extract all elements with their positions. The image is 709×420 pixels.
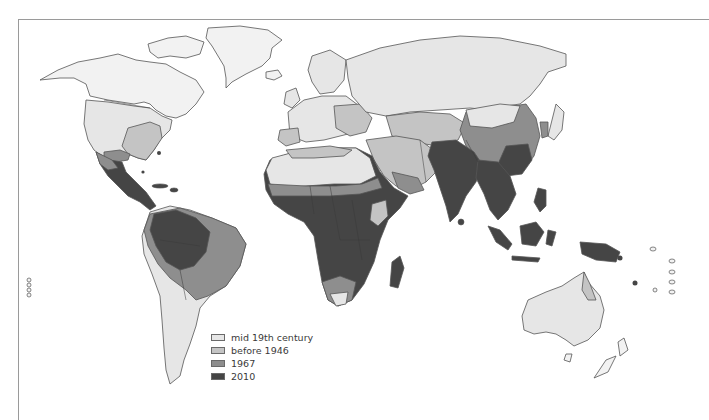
iberia — [278, 128, 300, 146]
legend-swatch — [211, 373, 225, 380]
sulawesi — [546, 230, 556, 246]
south-africa-tip — [330, 292, 348, 306]
legend-swatch — [211, 347, 225, 354]
australia — [522, 272, 604, 346]
pacific-island — [669, 270, 675, 274]
pacific-island-2010 — [618, 256, 623, 261]
legend-label: mid 19th century — [231, 331, 313, 344]
legend-item-1967: 1967 — [211, 357, 313, 370]
japan — [548, 104, 564, 140]
pacific-island — [669, 280, 675, 284]
legend-swatch — [211, 360, 225, 367]
island-chain-left — [27, 288, 31, 292]
map-legend: mid 19th century before 1946 1967 2010 — [211, 331, 313, 383]
new-zealand-north — [618, 338, 628, 356]
new-zealand-south — [594, 356, 616, 378]
legend-label: before 1946 — [231, 344, 289, 357]
pacific-island-2010 — [633, 281, 638, 286]
north-africa-coast — [286, 146, 352, 158]
island-chain-left — [27, 278, 31, 282]
sumatra — [488, 226, 512, 250]
java — [512, 256, 540, 262]
pacific-island — [669, 290, 675, 294]
legend-swatch — [211, 334, 225, 341]
island-chain-left — [27, 283, 31, 287]
legend-item-2010: 2010 — [211, 370, 313, 383]
arctic-islands — [148, 36, 204, 58]
iceland — [266, 70, 282, 80]
cuba — [152, 184, 168, 188]
korea — [540, 122, 548, 138]
pacific-island — [650, 247, 656, 251]
new-guinea — [580, 242, 620, 262]
hispaniola — [170, 188, 178, 192]
borneo — [520, 222, 544, 246]
legend-item-mid-19th-century: mid 19th century — [211, 331, 313, 344]
sri-lanka — [458, 219, 464, 225]
russia-siberia — [346, 36, 566, 116]
pacific-island — [669, 259, 675, 263]
legend-item-before-1946: before 1946 — [211, 344, 313, 357]
madagascar — [390, 256, 404, 288]
philippines — [534, 188, 546, 212]
island-chain-left — [27, 293, 31, 297]
bahamas — [141, 170, 144, 173]
bermuda — [157, 151, 161, 155]
legend-label: 1967 — [231, 357, 255, 370]
pacific-island — [653, 288, 657, 292]
tasmania — [564, 354, 572, 362]
scandinavia — [308, 50, 346, 94]
legend-label: 2010 — [231, 370, 255, 383]
south-asia — [428, 140, 482, 222]
